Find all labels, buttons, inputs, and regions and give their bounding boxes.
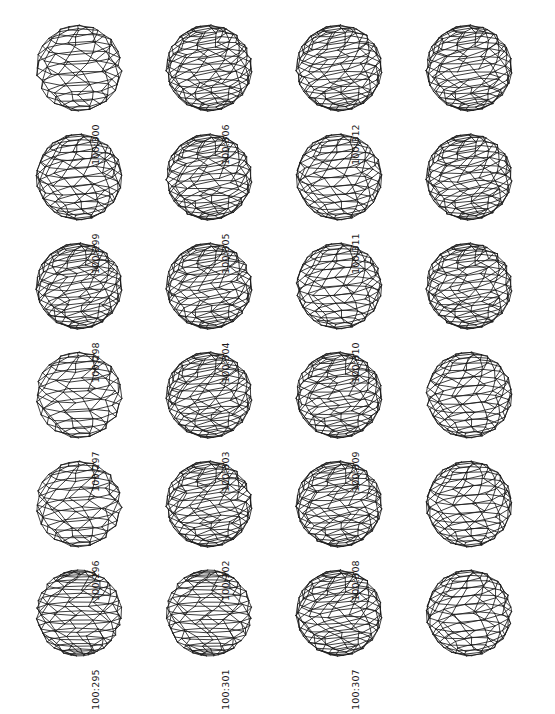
- figure-cell: 100:297: [138, 341, 268, 450]
- figure-cell: 100:298: [138, 232, 268, 341]
- fullerene-cage-diagram: [24, 123, 134, 229]
- figure-cell: 100:290: [8, 450, 138, 559]
- figure-plate: 100:294100:300100:306100:312100:293100:2…: [0, 0, 555, 714]
- fullerene-cage-diagram: [24, 14, 134, 120]
- fullerene-cage-diagram: [414, 14, 524, 120]
- figure-cell: 100:307: [398, 559, 528, 668]
- fullerene-cage-diagram: [24, 559, 134, 665]
- fullerene-cage-diagram: [154, 450, 264, 556]
- fullerene-cage-diagram: [414, 123, 524, 229]
- fullerene-cage-diagram: [154, 559, 264, 665]
- figure-cell: 100:302: [268, 450, 398, 559]
- figure-cell: 100:291: [8, 341, 138, 450]
- figure-cell: 100:310: [398, 232, 528, 341]
- figure-label: 100:301: [220, 650, 232, 710]
- fullerene-cage-diagram: [24, 341, 134, 447]
- figure-grid: 100:294100:300100:306100:312100:293100:2…: [8, 14, 547, 700]
- figure-cell: 100:301: [268, 559, 398, 668]
- fullerene-cage-diagram: [284, 123, 394, 229]
- fullerene-cage-diagram: [414, 232, 524, 338]
- fullerene-cage-diagram: [414, 341, 524, 447]
- fullerene-cage-diagram: [284, 559, 394, 665]
- figure-cell: 100:311: [398, 123, 528, 232]
- figure-cell: 100:309: [398, 341, 528, 450]
- fullerene-cage-diagram: [284, 450, 394, 556]
- figure-cell: 100:292: [8, 232, 138, 341]
- figure-cell: 100:299: [138, 123, 268, 232]
- fullerene-cage-diagram: [284, 341, 394, 447]
- fullerene-cage-diagram: [24, 232, 134, 338]
- fullerene-cage-diagram: [414, 450, 524, 556]
- figure-label: 100:295: [90, 650, 102, 710]
- figure-cell: 100:306: [268, 14, 398, 123]
- figure-label: 100:307: [350, 650, 362, 710]
- fullerene-cage-diagram: [284, 14, 394, 120]
- fullerene-cage-diagram: [284, 232, 394, 338]
- figure-cell: 100:300: [138, 14, 268, 123]
- fullerene-cage-diagram: [154, 14, 264, 120]
- figure-cell: 100:289: [8, 559, 138, 668]
- figure-cell: 100:304: [268, 232, 398, 341]
- figure-cell: 100:308: [398, 450, 528, 559]
- figure-cell: 100:295: [138, 559, 268, 668]
- figure-cell: 100:293: [8, 123, 138, 232]
- figure-cell: 100:296: [138, 450, 268, 559]
- fullerene-cage-diagram: [154, 232, 264, 338]
- figure-cell: 100:294: [8, 14, 138, 123]
- figure-cell: 100:303: [268, 341, 398, 450]
- fullerene-cage-diagram: [414, 559, 524, 665]
- fullerene-cage-diagram: [154, 341, 264, 447]
- figure-cell: 100:305: [268, 123, 398, 232]
- figure-cell: 100:312: [398, 14, 528, 123]
- fullerene-cage-diagram: [24, 450, 134, 556]
- fullerene-cage-diagram: [154, 123, 264, 229]
